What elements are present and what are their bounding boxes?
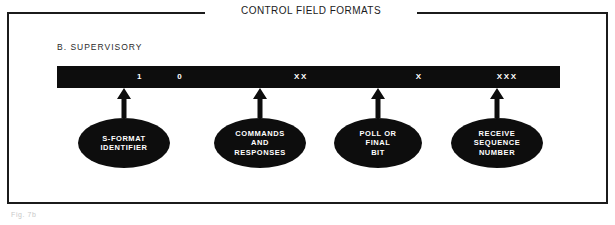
bottom-caption: Fig. 7b <box>11 211 81 219</box>
callout-label: POLL OR FINAL BIT <box>359 129 396 158</box>
figure-title-bar: CONTROL FIELD FORMATS <box>0 0 615 26</box>
callout-label: RECEIVE SEQUENCE NUMBER <box>474 129 521 158</box>
arrow-up-icon <box>370 88 386 118</box>
arrow-up-icon <box>252 88 268 118</box>
figure-root: CONTROL FIELD FORMATS B. SUPERVISORY 10X… <box>0 0 615 225</box>
callout-label: S-FORMAT IDENTIFIER <box>100 134 147 153</box>
figure-frame <box>7 12 608 204</box>
arrow-up-icon <box>489 88 505 118</box>
control-field-bar: 10XXXXXX <box>57 66 560 88</box>
bit-label: 0 <box>150 66 210 88</box>
callout-label: COMMANDS AND RESPONSES <box>234 129 286 158</box>
callout-ellipse: RECEIVE SEQUENCE NUMBER <box>451 118 543 168</box>
bit-label: XX <box>271 66 331 88</box>
callout-ellipse: COMMANDS AND RESPONSES <box>214 118 306 168</box>
bit-label: XXX <box>477 66 537 88</box>
arrow-up-icon <box>116 88 132 118</box>
section-label: B. SUPERVISORY <box>57 42 143 52</box>
bit-label: X <box>389 66 449 88</box>
figure-title: CONTROL FIELD FORMATS <box>205 5 417 16</box>
callout-ellipse: S-FORMAT IDENTIFIER <box>78 118 170 168</box>
callout-ellipse: POLL OR FINAL BIT <box>334 118 422 168</box>
